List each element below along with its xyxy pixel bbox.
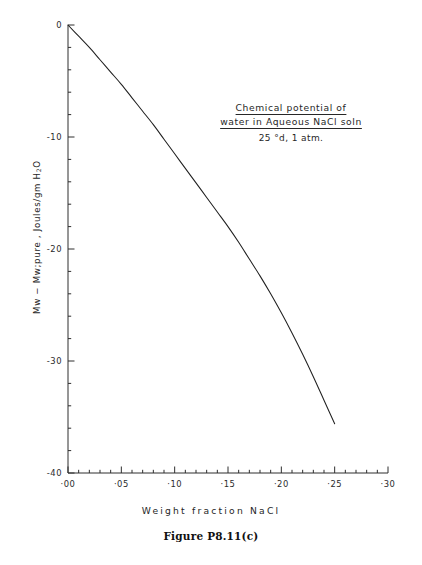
x-tick-label: ·25 — [327, 479, 342, 489]
x-tick-label: ·10 — [167, 479, 182, 489]
y-axis-ticks — [68, 25, 75, 473]
x-tick-label: ·15 — [221, 479, 236, 489]
x-axis-ticks — [68, 467, 388, 474]
y-axis-title-subscript: 2 — [35, 168, 42, 173]
y-tick-label: -30 — [30, 356, 62, 366]
y-tick-label: -40 — [30, 468, 62, 478]
x-axis-title: Weight fraction NaCl — [0, 505, 422, 516]
annotation-line-2: water in Aqueous NaCl soln — [206, 115, 376, 129]
y-tick-label: 0 — [30, 20, 62, 30]
x-tick-label: ·00 — [61, 479, 76, 489]
y-axis-title-prefix: Μw − Μw;pure , Joules/gm H — [32, 172, 42, 314]
x-tick-label: ·05 — [114, 479, 129, 489]
figure-root: ·00·05·10·15·20·25·30 0-10-20-30-40 Chem… — [0, 0, 422, 565]
annotation-line-1: Chemical potential of — [206, 101, 376, 115]
data-curve-chemical-potential — [68, 25, 335, 424]
annotation-line-conditions: 25 °d, 1 atm. — [206, 132, 376, 146]
y-axis-title-suffix: O — [32, 160, 42, 167]
axis-lines — [68, 25, 388, 473]
plot-annotation: Chemical potential of water in Aqueous N… — [206, 101, 376, 145]
y-axis-title: Μw − Μw;pure , Joules/gm H2O — [32, 122, 42, 352]
figure-caption: Figure P8.11(c) — [0, 530, 422, 542]
x-tick-label: ·20 — [274, 479, 289, 489]
x-tick-label: ·30 — [381, 479, 396, 489]
